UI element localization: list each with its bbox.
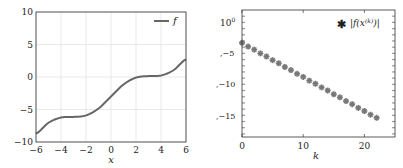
asterisk-marker bbox=[282, 64, 288, 70]
asterisk-marker bbox=[294, 71, 300, 77]
y-tick-label: 5 bbox=[27, 40, 33, 50]
ytick-minus10: ,−10 bbox=[216, 80, 235, 89]
asterisk-marker bbox=[270, 57, 276, 63]
right-legend: ✱ |f(x(k))| bbox=[337, 17, 380, 31]
right-x-tick-labels: 01020 bbox=[239, 141, 370, 151]
left-legend-label: f bbox=[172, 15, 179, 26]
x-tick-label: −4 bbox=[54, 145, 68, 155]
y-tick-label: −10 bbox=[14, 137, 33, 147]
asterisk-marker-icon: ✱ bbox=[337, 18, 346, 31]
ytick-minus5: ,−5 bbox=[220, 49, 234, 58]
asterisk-marker bbox=[368, 112, 374, 118]
ytick-minus15: ,−15 bbox=[216, 112, 235, 121]
asterisk-marker bbox=[374, 115, 380, 121]
ytick-10e0: 100 bbox=[220, 16, 235, 28]
asterisk-marker bbox=[343, 98, 349, 104]
left-plot: −6−4−20246 −10−50510 x f bbox=[14, 7, 189, 165]
right-axes-frame bbox=[242, 10, 395, 137]
right-y-tick-labels: 100 ,−5 ,−10 ,−15 bbox=[216, 16, 235, 121]
asterisk-marker bbox=[325, 88, 331, 94]
asterisk-marker bbox=[257, 50, 263, 56]
right-minor-ticks bbox=[242, 10, 395, 137]
asterisk-marker bbox=[251, 47, 257, 53]
asterisk-marker bbox=[319, 84, 325, 90]
left-legend: f bbox=[154, 15, 179, 26]
right-x-axis-label: k bbox=[313, 150, 319, 161]
asterisk-marker bbox=[263, 53, 269, 59]
figure: −6−4−20246 −10−50510 x f 01020 100 ,−5 ,… bbox=[0, 0, 403, 168]
asterisk-marker bbox=[306, 78, 312, 84]
asterisk-marker bbox=[276, 60, 282, 66]
asterisk-marker bbox=[245, 44, 251, 50]
residual-markers bbox=[239, 40, 380, 121]
x-tick-label: 20 bbox=[359, 141, 371, 151]
x-tick-label: 10 bbox=[297, 141, 309, 151]
left-x-axis-label: x bbox=[108, 154, 114, 165]
asterisk-marker bbox=[300, 74, 306, 80]
left-y-tick-labels: −10−50510 bbox=[14, 7, 33, 147]
right-legend-label: |f(x(k))| bbox=[350, 17, 380, 29]
x-tick-label: 2 bbox=[133, 145, 139, 155]
asterisk-marker bbox=[288, 67, 294, 73]
asterisk-marker bbox=[331, 91, 337, 97]
asterisk-marker bbox=[312, 81, 318, 87]
left-grid bbox=[36, 12, 186, 142]
asterisk-marker bbox=[355, 105, 361, 111]
asterisk-marker bbox=[349, 101, 355, 107]
asterisk-marker bbox=[337, 94, 343, 100]
right-plot: 01020 100 ,−5 ,−10 ,−15 k ✱ |f(x(k))| bbox=[216, 10, 395, 161]
y-tick-label: −5 bbox=[20, 105, 34, 115]
y-tick-label: 10 bbox=[22, 7, 34, 17]
x-tick-label: 6 bbox=[183, 145, 189, 155]
x-tick-label: 0 bbox=[239, 141, 245, 151]
x-tick-label: 4 bbox=[158, 145, 164, 155]
x-tick-label: −2 bbox=[79, 145, 92, 155]
asterisk-marker bbox=[361, 108, 367, 114]
y-tick-label: 0 bbox=[27, 72, 33, 82]
